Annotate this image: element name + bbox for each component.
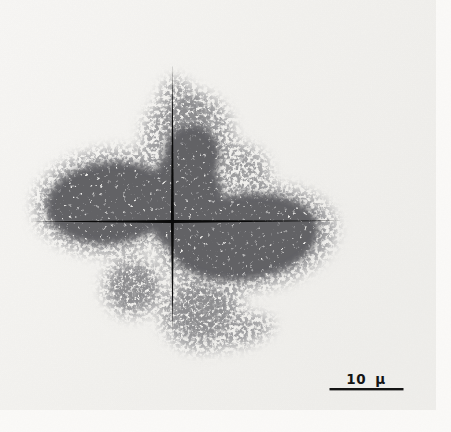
figure-root: 10 μ (0, 0, 451, 432)
micrograph-image: 10 μ (0, 0, 451, 432)
scale-bar-line (330, 388, 404, 390)
scale-bar-label: 10 μ (346, 371, 385, 387)
